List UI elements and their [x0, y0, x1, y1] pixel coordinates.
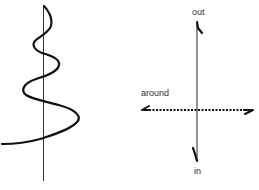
around-left-arrowhead: [142, 106, 150, 110]
out-arrowhead: [197, 22, 202, 33]
in-label: in: [194, 167, 201, 176]
diagram-canvas: out around in: [0, 0, 259, 190]
in-arrowhead: [193, 148, 197, 161]
diagram-svg: [0, 0, 259, 190]
out-label: out: [192, 8, 205, 17]
spiral-curve: [2, 6, 79, 144]
around-label: around: [141, 89, 169, 98]
around-right-arrowhead: [244, 110, 253, 114]
